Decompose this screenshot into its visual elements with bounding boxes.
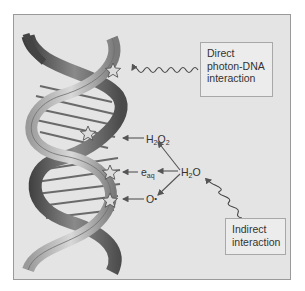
label-line: Indirect <box>232 223 279 236</box>
photon-wave-direct <box>132 68 198 73</box>
h2o2-label: H2O2 <box>146 133 170 149</box>
o-radical-label: O• <box>146 193 157 205</box>
label-line: photon-DNA <box>207 60 266 73</box>
photon-wave-indirect <box>209 180 242 218</box>
e-aq-label: eaq <box>141 166 155 182</box>
label-line: interaction <box>207 72 266 85</box>
indirect-interaction-label: Indirect interaction <box>225 218 286 255</box>
h2o-label: H2O <box>181 166 201 182</box>
direct-interaction-label: Direct photon-DNA interaction <box>200 42 273 97</box>
label-line: Direct <box>207 47 266 60</box>
label-line: interaction <box>232 236 279 249</box>
